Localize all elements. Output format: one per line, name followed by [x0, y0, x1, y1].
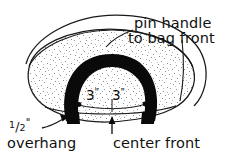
overhang-label: overhang — [7, 136, 76, 151]
right-measure-dot — [143, 102, 148, 107]
handle-left-strap-end — [66, 112, 80, 124]
left-measure-dot — [77, 102, 82, 107]
dimension-left: 3" — [86, 86, 99, 103]
overhang-leader-line — [42, 119, 63, 128]
half-inch-label: 1/2" — [9, 118, 30, 133]
center-front-label: center front — [113, 136, 200, 151]
diagram-canvas: pin handle to bag front 1/2" overhang ce… — [0, 0, 230, 160]
pin-handle-label-line1: pin handle — [134, 16, 211, 31]
dimension-right-value: 3 — [112, 87, 121, 103]
handle-right-strap-end — [141, 112, 155, 124]
half-inch-unit: " — [26, 117, 31, 128]
dimension-right-unit: " — [121, 86, 125, 97]
dimension-left-value: 3 — [86, 87, 95, 103]
dimension-right: 3" — [112, 86, 125, 103]
dimension-left-unit: " — [95, 86, 99, 97]
pin-handle-label-line2: to bag front — [128, 31, 215, 46]
